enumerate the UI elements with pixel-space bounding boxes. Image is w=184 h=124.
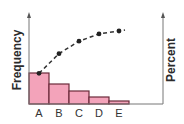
y-axis-label-right: Percent [164, 38, 178, 82]
bar-D [89, 97, 109, 104]
bar-A [29, 73, 49, 104]
right-axis-arrow-icon [161, 12, 165, 18]
cumulative-point-C [77, 39, 82, 44]
x-tick-B: B [55, 107, 62, 119]
cumulative-point-B [57, 51, 62, 56]
cumulative-point-E [117, 29, 122, 34]
cumulative-dashed-line [39, 30, 125, 73]
bar-B [49, 84, 69, 104]
cumulative-line [37, 29, 125, 76]
cumulative-point-D [97, 32, 102, 37]
x-tick-C: C [75, 107, 83, 119]
y-axis-label-left: Frequency [10, 29, 24, 90]
x-tick-labels: ABCDE [35, 107, 122, 119]
left-axis-arrow-icon [27, 12, 31, 18]
bars [29, 73, 129, 104]
x-tick-A: A [35, 107, 43, 119]
x-tick-D: D [95, 107, 103, 119]
cumulative-point-A [37, 71, 42, 76]
bar-C [69, 91, 89, 104]
pareto-chart: ABCDE Frequency Percent [0, 0, 184, 124]
x-tick-E: E [115, 107, 122, 119]
